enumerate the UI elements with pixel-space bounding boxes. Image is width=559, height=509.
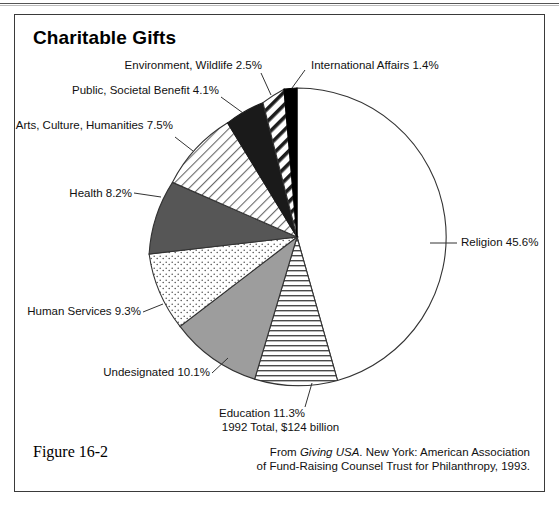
slice-label-public-societal-benefit: Public, Societal Benefit 4.1% xyxy=(15,84,219,97)
source-rest: . New York: American Association xyxy=(359,446,530,458)
source-line-2: of Fund-Raising Counsel Trust for Philan… xyxy=(257,460,530,472)
leader-line-public xyxy=(221,97,243,113)
page-top-rule xyxy=(0,3,559,4)
slice-label-arts-culture-humanities: Arts, Culture, Humanities 7.5% xyxy=(15,119,173,132)
slice-label-education: Education 11.3% xyxy=(219,407,305,420)
slice-label-human-services: Human Services 9.3% xyxy=(15,305,141,318)
slice-label-religion: Religion 45.6% xyxy=(461,236,538,249)
slice-label-environment-wildlife: Environment, Wildlife 2.5% xyxy=(15,59,262,72)
page-top-rule-secondary xyxy=(0,5,559,6)
figure-container: Charitable Gifts xyxy=(14,14,545,492)
chart-total-note: 1992 Total, $124 billion xyxy=(15,421,546,433)
slice-label-international-affairs: International Affairs 1.4% xyxy=(311,59,439,72)
slice-label-health: Health 8.2% xyxy=(15,187,132,200)
source-attribution: From Giving USA. New York: American Asso… xyxy=(230,445,530,473)
leader-line-arts xyxy=(175,137,193,151)
slice-label-undesignated: Undesignated 10.1% xyxy=(15,366,210,379)
leader-line-education xyxy=(305,383,312,407)
figure-number: Figure 16-2 xyxy=(33,443,108,461)
source-prefix: From xyxy=(270,446,300,458)
source-publication-title: Giving USA xyxy=(300,446,359,458)
leader-line-international xyxy=(292,70,305,88)
leader-line-environment xyxy=(261,73,271,95)
leader-line-human-services xyxy=(143,304,163,312)
leader-line-health xyxy=(134,193,161,197)
